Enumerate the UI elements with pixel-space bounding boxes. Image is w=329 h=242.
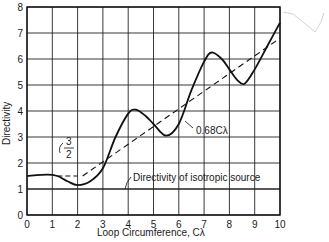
x-tick-label: 2 (75, 219, 81, 230)
fraction-numerator: 3 (66, 136, 72, 147)
y-tick-label: 2 (17, 158, 23, 169)
grid-lines (27, 7, 280, 215)
y-tick-label: 3 (17, 132, 23, 143)
y-tick-label: 8 (17, 2, 23, 13)
scan-artifact-scribble (283, 12, 324, 32)
y-tick-label: 1 (17, 184, 23, 195)
x-tick-label: 1 (50, 219, 56, 230)
x-tick-label: 0 (24, 219, 30, 230)
y-tick-label: 7 (17, 28, 23, 39)
directivity-chart: 012345678910 012345678 0.68Cλ 3 2 Direct… (0, 0, 329, 242)
x-tick-label: 10 (274, 219, 286, 230)
fraction-denominator: 2 (66, 149, 72, 160)
y-tick-label: 4 (17, 106, 23, 117)
linear-approx-label: 0.68Cλ (196, 125, 228, 136)
y-tick-label: 0 (17, 210, 23, 221)
label-arrow-32 (59, 143, 63, 153)
isotropic-label: Directivity of isotropic source (133, 172, 261, 183)
y-axis-ticks: 012345678 (17, 2, 23, 221)
x-tick-label: 8 (227, 219, 233, 230)
label-arrow-068 (185, 121, 193, 128)
x-tick-label: 9 (252, 219, 258, 230)
y-axis-label: Directivity (1, 102, 12, 145)
x-axis-label: Loop Circumference, Cλ (97, 227, 205, 238)
y-tick-label: 6 (17, 54, 23, 65)
y-tick-label: 5 (17, 80, 23, 91)
